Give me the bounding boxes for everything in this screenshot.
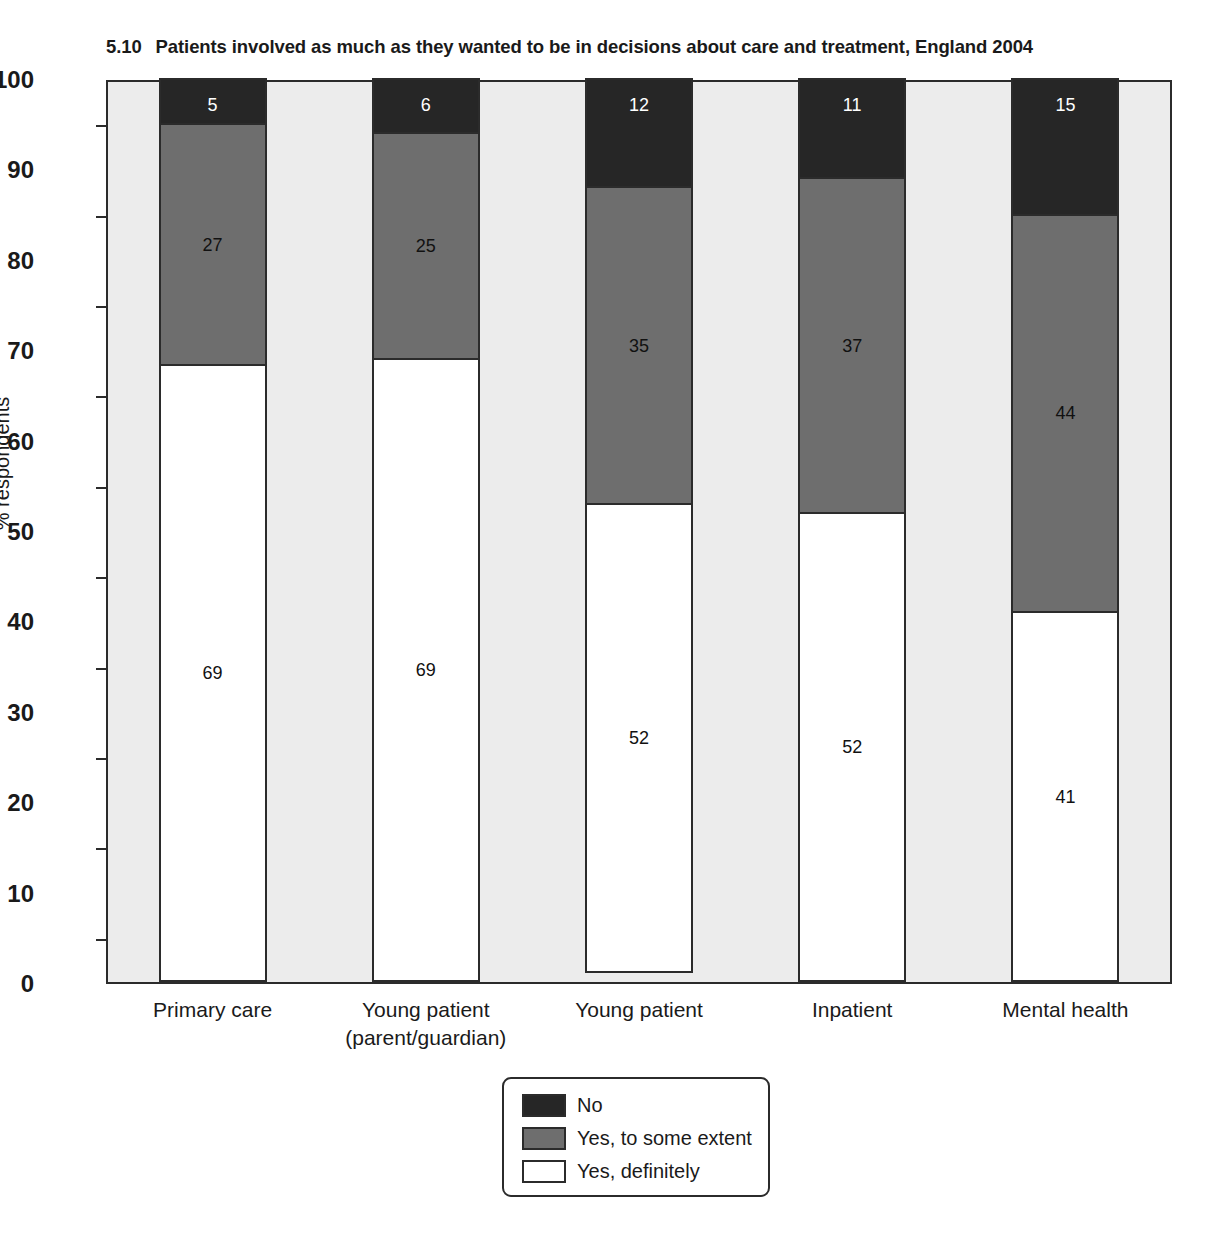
x-tick-label: Inpatient (746, 996, 959, 1024)
bar-segment-value: 11 (800, 96, 904, 114)
bar-segment-some: 27 (159, 123, 267, 365)
bar-segment-no: 5 (159, 78, 267, 123)
bar-segment-some: 35 (585, 186, 693, 502)
legend: NoYes, to some extentYes, definitely (502, 1077, 770, 1197)
x-tick-label: Mental health (959, 996, 1172, 1024)
bar-segment-no: 15 (1011, 78, 1119, 214)
bar-segment-value: 69 (374, 661, 478, 679)
x-tick-label: Primary care (106, 996, 319, 1024)
bar: 123552 (585, 78, 693, 982)
plot-area: 5276962569123552113752154441 (106, 80, 1172, 984)
bar-segment-definitely: 52 (585, 503, 693, 973)
chart-title-text: Patients involved as much as they wanted… (156, 36, 1033, 57)
chart-number: 5.10 (106, 36, 142, 58)
bar-segment-value: 6 (374, 96, 478, 114)
x-tick-label: Young patient (532, 996, 745, 1024)
bar-segment-some: 37 (798, 177, 906, 511)
bar-segment-definitely: 69 (159, 364, 267, 982)
y-tick-label: 30 (0, 699, 34, 727)
bar-segment-value: 52 (800, 738, 904, 756)
legend-item: Yes, to some extent (522, 1122, 768, 1155)
legend-item: No (522, 1089, 768, 1122)
bar-segment-value: 15 (1013, 96, 1117, 114)
bar: 154441 (1011, 78, 1119, 982)
legend-swatch-icon (522, 1160, 566, 1183)
bar: 52769 (159, 78, 267, 982)
bar-segment-definitely: 52 (798, 512, 906, 982)
y-tick-label: 40 (0, 608, 34, 636)
bar: 113752 (798, 78, 906, 982)
bar-segment-no: 11 (798, 78, 906, 177)
bar-segment-value: 69 (161, 664, 265, 682)
bar-segment-value: 27 (161, 236, 265, 254)
bar-segment-value: 41 (1013, 788, 1117, 806)
legend-swatch-icon (522, 1094, 566, 1117)
bar-segment-definitely: 41 (1011, 611, 1119, 982)
legend-swatch-icon (522, 1127, 566, 1150)
y-tick-label: 70 (0, 337, 34, 365)
bar-segment-value: 44 (1013, 404, 1117, 422)
bar-segment-some: 44 (1011, 214, 1119, 612)
legend-label: No (577, 1094, 603, 1117)
bar: 62569 (372, 78, 480, 982)
y-tick-label: 10 (0, 880, 34, 908)
bar-segment-value: 35 (587, 337, 691, 355)
bar-segment-value: 12 (587, 96, 691, 114)
page-title: 5.10Patients involved as much as they wa… (106, 36, 1196, 58)
y-tick-label: 60 (0, 428, 34, 456)
bar-segment-no: 12 (585, 78, 693, 186)
legend-label: Yes, definitely (577, 1160, 700, 1183)
bar-segment-value: 5 (161, 96, 265, 114)
y-tick-label: 90 (0, 156, 34, 184)
y-tick-label: 100 (0, 66, 34, 94)
y-tick-label: 50 (0, 518, 34, 546)
y-tick-label: 20 (0, 789, 34, 817)
bar-segment-value: 52 (587, 729, 691, 747)
bar-segment-no: 6 (372, 78, 480, 132)
legend-label: Yes, to some extent (577, 1127, 752, 1150)
y-tick-label: 80 (0, 247, 34, 275)
bar-segment-definitely: 69 (372, 358, 480, 982)
legend-item: Yes, definitely (522, 1155, 768, 1188)
x-tick-label: Young patient (parent/guardian) (319, 996, 532, 1051)
bar-segment-value: 25 (374, 237, 478, 255)
bar-segment-some: 25 (372, 132, 480, 358)
y-tick-label: 0 (0, 970, 34, 998)
bar-segment-value: 37 (800, 337, 904, 355)
